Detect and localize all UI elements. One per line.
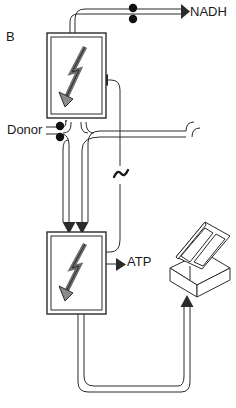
panel-label: B [6,30,15,43]
solar-panel-device [170,222,230,297]
flow-solar-riser [186,122,200,137]
atp-label: ATP [127,255,151,268]
flow-return-to-lower [76,131,187,234]
high-energy-bond-symbol [113,166,128,184]
donor-electron-pair-icon [56,122,64,141]
flow-donor-to-lower-a [63,134,76,234]
flow-lower-to-atp [106,258,126,271]
figure-panel-b: B NADH Donor ATP [0,0,236,408]
nadh-label: NADH [190,5,227,18]
lower-reaction-box [47,232,106,314]
donor-label: Donor [7,123,42,136]
diagram-canvas [0,0,236,408]
upper-reaction-box [47,33,106,118]
